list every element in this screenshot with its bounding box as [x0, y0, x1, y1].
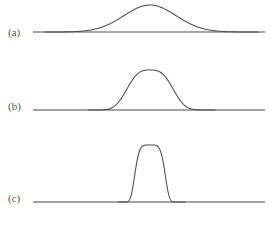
panel-c	[33, 145, 265, 202]
curve-b	[88, 70, 215, 110]
panel-label-c: (c)	[8, 192, 20, 204]
panel-b	[33, 70, 265, 110]
curve-a	[45, 5, 258, 32]
curves-plot	[0, 0, 270, 226]
panel-label-a: (a)	[8, 26, 20, 38]
curve-c	[118, 145, 185, 202]
figure-container: (a) (b) (c)	[0, 0, 270, 226]
panel-a	[33, 5, 265, 32]
panel-label-b: (b)	[8, 100, 21, 112]
